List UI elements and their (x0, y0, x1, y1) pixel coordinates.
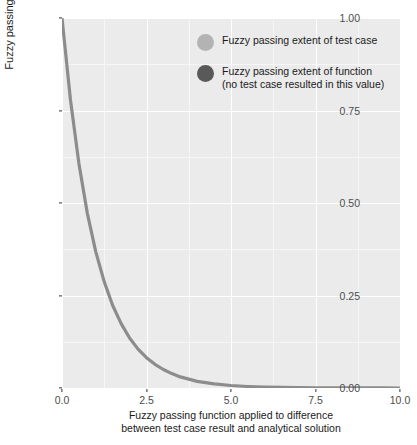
x-tick-mark (399, 389, 400, 393)
x-tick-label: 10.0 (390, 394, 410, 406)
legend-item-function: Fuzzy passing extent of function (no tes… (194, 62, 409, 90)
y-tick-mark (59, 295, 63, 296)
chart-legend: Fuzzy passing extent of test case Fuzzy … (194, 31, 409, 99)
x-tick-mark (61, 389, 62, 393)
x-tick-label: 2.5 (139, 394, 154, 406)
y-axis-title: Fuzzy passing extent (0, 0, 18, 203)
legend-label-line: Fuzzy passing extent of test case (222, 34, 377, 47)
y-tick-label: 0.00 (340, 382, 360, 394)
y-tick-mark (59, 202, 63, 203)
circle-marker-icon (194, 31, 216, 53)
y-tick-label: 0.75 (340, 105, 360, 117)
y-tick-mark (59, 110, 63, 111)
legend-label-line: Fuzzy passing extent of function (222, 65, 384, 78)
y-tick-label: 0.50 (340, 197, 360, 209)
y-tick-label: 1.00 (340, 12, 360, 24)
x-tick-label: 0.0 (55, 394, 70, 406)
circle-marker-icon (194, 62, 216, 84)
legend-label-line: (no test case resulted in this value) (222, 78, 384, 91)
chart-figure: Fuzzy passing extent of test case Fuzzy … (0, 0, 417, 445)
x-axis-title: Fuzzy passing function applied to differ… (62, 409, 400, 435)
y-tick-label: 0.25 (340, 290, 360, 302)
y-tick-mark (59, 17, 63, 18)
x-tick-mark (230, 389, 231, 393)
x-tick-label: 5.0 (224, 394, 239, 406)
x-axis-title-line: Fuzzy passing function applied to differ… (62, 409, 400, 422)
legend-label-test-case: Fuzzy passing extent of test case (222, 31, 377, 47)
legend-item-test-case: Fuzzy passing extent of test case (194, 31, 409, 53)
x-tick-mark (315, 389, 316, 393)
x-axis-title-line: between test case result and analytical … (62, 422, 400, 435)
x-tick-mark (146, 389, 147, 393)
legend-label-function: Fuzzy passing extent of function (no tes… (222, 62, 384, 90)
x-tick-label: 7.5 (308, 394, 323, 406)
